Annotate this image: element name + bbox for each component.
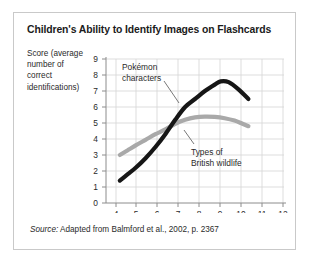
x-tick-label: 4	[114, 209, 119, 213]
source-text: Adapted from Balmford et al., 2002, p. 2…	[58, 225, 219, 234]
x-axis	[106, 203, 286, 207]
x-tick-label: 11	[258, 209, 267, 213]
line-chart-svg: 9 8 7 6 5 4 3 2 1 0	[78, 45, 290, 213]
source-label: Source:	[30, 225, 58, 234]
x-tick-label: 8	[197, 209, 202, 213]
y-tick-label: 1	[93, 182, 98, 192]
y-tick-label: 0	[93, 198, 98, 208]
leader-line-wildlife	[184, 130, 194, 144]
annotation-pokemon: Pokémon characters	[122, 62, 161, 83]
source-note: Source: Adapted from Balmford et al., 20…	[30, 225, 219, 234]
y-tick-label: 4	[93, 134, 98, 144]
y-axis	[102, 57, 106, 203]
x-tick-label: 7	[176, 209, 181, 213]
annotation-pokemon-line2: characters	[122, 73, 161, 83]
annotation-wildlife-line2: British wildlife	[191, 158, 242, 168]
y-tick-label: 8	[93, 70, 98, 80]
y-tick-label: 2	[93, 166, 98, 176]
y-tick-label: 9	[93, 54, 98, 64]
series-line-british-wildlife	[120, 117, 249, 155]
y-tick-label: 3	[93, 150, 98, 160]
y-tick-label: 6	[93, 102, 98, 112]
x-tick-labels: 4 5 6 7 8 9 10 11 12	[114, 209, 288, 213]
x-tick-label: 12	[278, 209, 288, 213]
annotation-wildlife-line1: Types of	[191, 147, 223, 157]
y-tick-label: 7	[93, 86, 98, 96]
annotation-wildlife: Types of British wildlife	[191, 147, 242, 168]
x-tick-label: 5	[134, 209, 139, 213]
y-tick-labels: 9 8 7 6 5 4 3 2 1 0	[93, 54, 98, 208]
x-tick-label: 10	[236, 209, 246, 213]
page-title: Children's Ability to Identify Images on…	[27, 24, 285, 36]
leader-line-pokemon	[164, 81, 179, 103]
y-tick-label: 5	[93, 118, 98, 128]
annotation-pokemon-line1: Pokémon	[122, 62, 158, 72]
x-tick-label: 6	[155, 209, 160, 213]
figure-card: Children's Ability to Identify Images on…	[13, 12, 296, 250]
x-tick-label: 9	[218, 209, 223, 213]
plot-area: 9 8 7 6 5 4 3 2 1 0	[78, 45, 290, 213]
